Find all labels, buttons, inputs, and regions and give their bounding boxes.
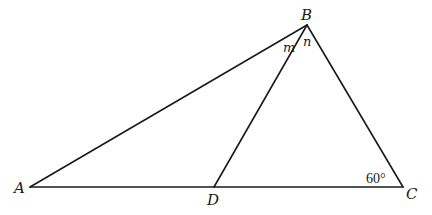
vertex-label-b: B bbox=[300, 6, 312, 24]
vertex-label-c: C bbox=[406, 185, 418, 203]
angle-label-c-60-degrees: 60° bbox=[366, 171, 386, 186]
angle-label-n: n bbox=[303, 34, 311, 49]
triangle-diagram: A B C D m n 60° bbox=[0, 0, 432, 215]
angle-label-m: m bbox=[283, 40, 295, 55]
segment-ab bbox=[30, 25, 307, 187]
vertex-label-d: D bbox=[206, 191, 219, 209]
segment-bc bbox=[307, 25, 403, 187]
vertex-label-a: A bbox=[12, 179, 25, 197]
